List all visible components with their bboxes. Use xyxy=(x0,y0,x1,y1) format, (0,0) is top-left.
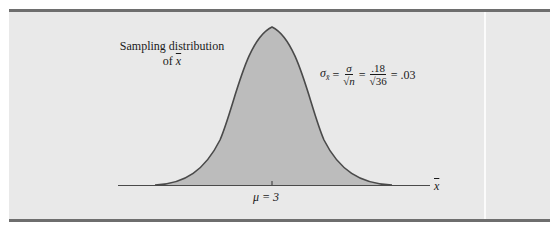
x-axis-label: x xyxy=(434,180,439,192)
curve-label-line2: of x xyxy=(119,55,225,67)
curve-label-line1: Sampling distribution xyxy=(120,39,224,53)
equals-sign: = xyxy=(391,69,398,81)
fraction-sigma-over-root-n: σ √n xyxy=(342,62,356,87)
equals-sign: = xyxy=(332,69,339,81)
mean-label: μ = 3 xyxy=(253,191,279,203)
fraction-denominator: √36 xyxy=(369,75,388,87)
curve-label: Sampling distribution of x xyxy=(119,40,225,67)
formula-result: .03 xyxy=(400,69,415,81)
curve-label-variable: x xyxy=(176,54,181,68)
fraction-denominator: √n xyxy=(342,75,356,87)
fraction-numerator: σ xyxy=(345,62,352,75)
fraction-numerator: .18 xyxy=(370,62,386,75)
equals-sign: = xyxy=(359,69,366,81)
mean-label-text: μ = 3 xyxy=(253,190,279,204)
fraction-values: .18 √36 xyxy=(369,62,388,87)
standard-error-formula: σx̄ = σ √n = .18 √36 = .03 xyxy=(320,62,415,87)
curve-label-prefix: of xyxy=(163,54,176,68)
formula-lhs: σx̄ xyxy=(320,67,329,82)
sigma-subscript: x̄ xyxy=(326,73,330,82)
